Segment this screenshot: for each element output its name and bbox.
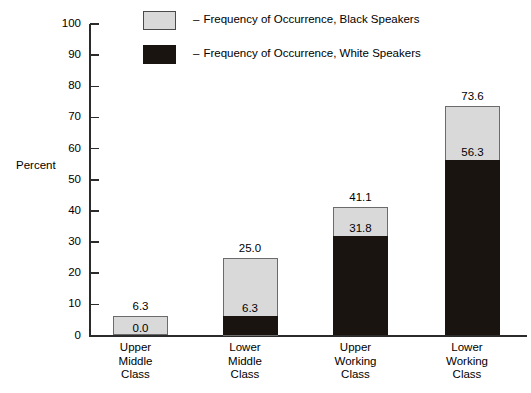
y-tick-50	[90, 179, 99, 181]
y-tick-100	[90, 23, 99, 25]
y-tick-label-80: 80	[51, 80, 81, 92]
y-tick-70	[90, 117, 99, 119]
y-tick-90	[90, 54, 99, 56]
y-tick-label-10: 10	[51, 298, 81, 310]
bar-segment-label-3: 56.3	[443, 147, 503, 159]
y-tick-label-50: 50	[51, 174, 81, 186]
legend-item-black-speakers: – Frequency of Occurrence, Black Speaker…	[143, 10, 421, 30]
category-label-line: Working	[422, 355, 512, 369]
category-label-line: Lower	[200, 341, 290, 355]
legend-dash-0: –	[193, 14, 199, 26]
category-label-2: UpperWorkingClass	[311, 341, 401, 382]
y-tick-label-70: 70	[51, 111, 81, 123]
legend-label-black-speakers: Frequency of Occurrence, Black Speakers	[203, 14, 419, 26]
category-label-line: Upper	[311, 341, 401, 355]
chart-legend: – Frequency of Occurrence, Black Speaker…	[143, 10, 421, 78]
y-tick-label-40: 40	[51, 205, 81, 217]
category-label-line: Class	[91, 368, 181, 382]
y-tick-60	[90, 148, 99, 150]
legend-dash-1: –	[193, 48, 199, 60]
category-label-0: UpperMiddleClass	[91, 341, 181, 382]
y-tick-label-90: 90	[51, 49, 81, 61]
y-tick-label-30: 30	[51, 236, 81, 248]
legend-swatch-black-icon	[143, 45, 176, 64]
y-tick-40	[90, 210, 99, 212]
bar-segment-label-2: 31.8	[331, 223, 391, 235]
y-tick-10	[90, 304, 99, 306]
y-tick-20	[90, 272, 99, 274]
bar-segment-white-speakers-3	[445, 160, 500, 335]
y-tick-label-20: 20	[51, 267, 81, 279]
category-label-line: Middle	[200, 355, 290, 369]
y-axis-title: Percent	[16, 160, 56, 172]
category-label-line: Upper	[91, 341, 181, 355]
bar-total-label-2: 41.1	[331, 192, 391, 204]
y-tick-label-60: 60	[51, 143, 81, 155]
category-label-line: Middle	[91, 355, 181, 369]
legend-item-white-speakers: – Frequency of Occurrence, White Speaker…	[143, 44, 421, 64]
bar-total-label-3: 73.6	[443, 91, 503, 103]
bar-chart: – Frequency of Occurrence, Black Speaker…	[0, 0, 531, 393]
category-label-line: Class	[200, 368, 290, 382]
category-label-line: Lower	[422, 341, 512, 355]
bar-total-label-0: 6.3	[111, 301, 171, 313]
bar-segment-label-0: 0.0	[111, 323, 171, 335]
category-label-line: Class	[422, 368, 512, 382]
category-label-line: Class	[311, 368, 401, 382]
y-tick-label-0: 0	[51, 330, 81, 342]
legend-swatch-gray-icon	[143, 11, 176, 30]
y-tick-label-100: 100	[51, 18, 81, 30]
category-label-3: LowerWorkingClass	[422, 341, 512, 382]
category-label-1: LowerMiddleClass	[200, 341, 290, 382]
y-tick-80	[90, 86, 99, 88]
bar-segment-white-speakers-1	[223, 316, 278, 336]
legend-label-white-speakers: Frequency of Occurrence, White Speakers	[203, 48, 420, 60]
bar-segment-label-1: 6.3	[220, 303, 280, 315]
y-tick-30	[90, 241, 99, 243]
bar-total-label-1: 25.0	[220, 243, 280, 255]
bar-segment-white-speakers-2	[333, 236, 388, 335]
category-label-line: Working	[311, 355, 401, 369]
y-tick-0	[90, 335, 99, 337]
